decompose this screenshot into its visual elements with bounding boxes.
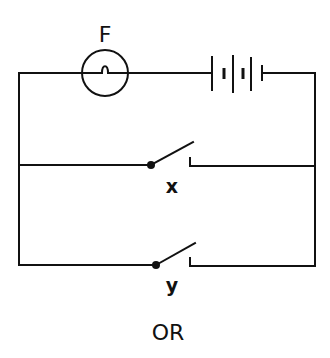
circuit-diagram: F x y OR xyxy=(0,0,330,358)
lamp-label: F xyxy=(99,22,112,47)
middle-branch xyxy=(19,142,315,169)
left-bottom-wire xyxy=(19,165,156,265)
battery-icon xyxy=(212,56,262,92)
caption: OR xyxy=(152,320,185,345)
switch-x-label: x xyxy=(166,175,178,197)
switch-y-label: y xyxy=(166,274,179,296)
top-branch xyxy=(19,73,315,166)
lamp-icon xyxy=(82,50,128,96)
bottom-branch xyxy=(152,243,315,269)
switch-x-blade xyxy=(151,142,193,165)
